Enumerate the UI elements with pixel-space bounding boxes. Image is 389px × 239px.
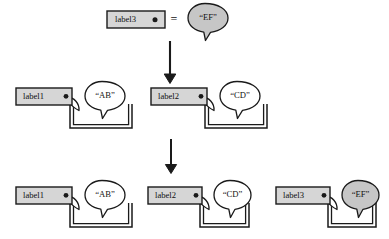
arrow-middle-to-bottom-head — [165, 165, 176, 174]
middle-group-1-bubble-text: “AB” — [95, 90, 115, 100]
arrow-middle-to-bottom — [165, 139, 176, 174]
bottom-group-1-bubble[interactable]: “AB” — [85, 181, 125, 218]
equals-sign: = — [171, 12, 178, 26]
middle-group-2-label-text: label2 — [158, 91, 179, 101]
middle-group-2-bubble[interactable]: “CD” — [220, 82, 260, 119]
bottom-group-1-port-dot-icon[interactable] — [64, 193, 69, 198]
top-row-definition: label3 = “EF” — [107, 4, 228, 41]
bottom-group-2-bubble-text: “CD” — [223, 189, 243, 199]
top-label-box[interactable]: label3 — [107, 11, 165, 28]
middle-group-1-port-dot-icon[interactable] — [64, 94, 69, 99]
bottom-group-3-label-box[interactable]: label3 — [276, 187, 330, 204]
bottom-group-1-label-text: label1 — [23, 190, 44, 200]
top-label-box-text: label3 — [115, 14, 136, 24]
middle-group-1: label1 “AB” — [16, 82, 132, 129]
top-speech-bubble-text: “EF” — [199, 12, 217, 22]
top-speech-bubble[interactable]: “EF” — [188, 4, 228, 41]
bottom-group-1: label1 “AB” — [16, 181, 132, 228]
bottom-group-1-bubble-text: “AB” — [95, 189, 115, 199]
bottom-group-3-bubble-text: “EF” — [352, 189, 370, 199]
port-dot-icon[interactable] — [153, 17, 158, 22]
middle-group-2: label2 “CD” — [151, 82, 267, 129]
diagram-svg: label3 = “EF” — [0, 0, 389, 239]
middle-group-2-label-box[interactable]: label2 — [151, 88, 207, 105]
bottom-group-3-port-dot-icon[interactable] — [322, 193, 327, 198]
bottom-group-3-bubble[interactable]: “EF” — [342, 181, 379, 218]
bottom-group-3-label-text: label3 — [283, 190, 304, 200]
bottom-group-2-label-text: label2 — [155, 190, 176, 200]
bottom-group-2: label2 “CD” — [148, 181, 251, 228]
middle-group-1-label-text: label1 — [23, 91, 44, 101]
bottom-group-2-port-dot-icon[interactable] — [194, 193, 199, 198]
bottom-group-1-label-box[interactable]: label1 — [16, 187, 72, 204]
bottom-group-2-label-box[interactable]: label2 — [148, 187, 202, 204]
diagram-canvas: label3 = “EF” — [0, 0, 389, 239]
arrow-top-to-middle-head — [164, 74, 176, 84]
middle-group-1-bubble[interactable]: “AB” — [85, 82, 125, 119]
arrow-top-to-middle — [164, 41, 176, 84]
middle-group-2-bubble-text: “CD” — [230, 90, 250, 100]
middle-group-2-port-dot-icon[interactable] — [199, 94, 204, 99]
bottom-group-3: label3 “EF” — [276, 181, 379, 228]
middle-group-1-label-box[interactable]: label1 — [16, 88, 72, 105]
